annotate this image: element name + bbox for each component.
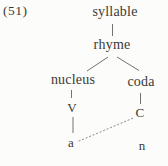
node-nucleus: nucleus	[51, 73, 95, 87]
edge-rhyme-coda	[117, 57, 139, 71]
node-a: a	[68, 136, 74, 149]
node-n: n	[139, 139, 146, 152]
syllable-tree-diagram: (51) syllable rhyme nucleus coda V C a n	[0, 0, 168, 166]
node-v: V	[67, 101, 77, 114]
node-syllable: syllable	[92, 5, 137, 19]
node-rhyme: rhyme	[94, 38, 131, 52]
node-c: C	[136, 106, 145, 119]
edge-a-c-dotted	[79, 118, 135, 142]
node-coda: coda	[127, 75, 154, 89]
edge-rhyme-nucleus	[87, 57, 108, 71]
example-number-label: (51)	[3, 4, 28, 18]
